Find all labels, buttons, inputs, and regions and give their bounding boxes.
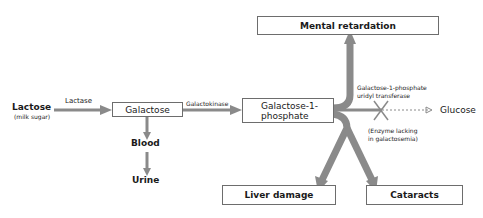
galactose-label: Galactose	[125, 105, 170, 115]
note-line2: in galactosemia)	[368, 135, 418, 143]
liver-damage-box: Liver damage	[222, 185, 336, 205]
cataracts-label: Cataracts	[390, 190, 439, 200]
g1p-label-line2: phosphate	[261, 111, 309, 121]
cataracts-box: Cataracts	[366, 185, 463, 205]
dashed-arrow-glucose	[382, 107, 432, 113]
transferase-label: Galactose-1-phosphate uridyl transferase	[357, 84, 427, 100]
glucose-label: Glucose	[440, 105, 476, 115]
arrow-lactose-galactose	[54, 105, 112, 115]
enzyme-note: (Enzyme lacking in galactosemia)	[368, 127, 418, 143]
galactokinase-label: Galactokinase	[186, 100, 228, 107]
mental-retardation-label: Mental retardation	[300, 21, 396, 31]
arrow-g1p-mental-retardation	[333, 30, 356, 108]
urine-label: Urine	[132, 175, 159, 185]
transferase-line2: uridyl transferase	[357, 92, 427, 100]
galactose-box: Galactose	[112, 102, 183, 117]
galactose-1-phosphate-box: Galactose-1- phosphate	[242, 98, 334, 123]
g1p-label-line1: Galactose-1-	[261, 101, 318, 111]
arrow-g1p-liver-damage	[315, 114, 347, 192]
lactase-label: Lactase	[65, 97, 92, 105]
lactose-label: Lactose	[12, 102, 51, 112]
mental-retardation-box: Mental retardation	[257, 16, 439, 35]
transferase-line1: Galactose-1-phosphate	[357, 84, 427, 92]
arrow-blood-urine	[143, 152, 151, 176]
blood-label: Blood	[131, 138, 160, 148]
note-line1: (Enzyme lacking	[368, 127, 418, 135]
liver-damage-label: Liver damage	[245, 190, 314, 200]
lactose-sublabel: (milk sugar)	[14, 113, 50, 120]
arrow-galactose-blood	[143, 116, 151, 140]
